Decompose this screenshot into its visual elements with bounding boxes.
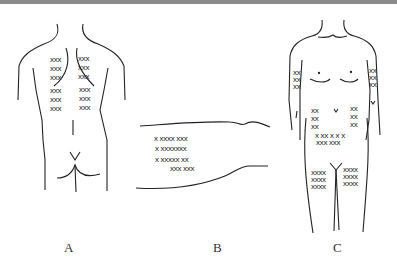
panel-label-b: B	[213, 240, 222, 256]
x-mark: xxx	[79, 103, 90, 112]
x-mark: xxx	[79, 85, 90, 94]
x-mark: xx	[311, 122, 319, 131]
x-mark: xxx	[50, 73, 61, 82]
x-mark: xxx xxx	[316, 138, 340, 147]
x-mark: xxxx	[311, 182, 326, 191]
x-mark: xxx	[50, 86, 61, 95]
x-mark: xx	[350, 120, 358, 129]
x-mark: xxx	[78, 72, 89, 81]
x-mark: xxxx	[343, 179, 358, 188]
x-mark: xxx xxx	[170, 164, 194, 173]
panel-label-a: A	[64, 240, 73, 256]
x-mark: x xxxx xxx	[154, 134, 188, 143]
x-mark: xx	[293, 82, 301, 91]
x-mark: xxx	[78, 63, 89, 72]
x-mark: xxx	[50, 64, 61, 73]
x-mark: xxx	[79, 94, 90, 103]
x-mark: xxx	[78, 54, 89, 63]
x-mark: x xxxxxxx	[155, 144, 187, 153]
x-mark: xxx	[50, 104, 61, 113]
back-marks: xxx xxx xxx xxx xxx xxx xxx xxx xxx xxx …	[50, 54, 90, 113]
thigh-marks: x xxxx xxx x xxxxxxx x xxxxx xx xxx xxx	[154, 134, 194, 173]
x-mark: xxx	[50, 55, 61, 64]
x-mark: x xxxxx xx	[155, 155, 189, 164]
figure-back	[18, 24, 125, 192]
panel-label-c: C	[333, 240, 342, 256]
x-mark: xxx	[50, 95, 61, 104]
injection-sites-illustration: xxx xxx xxx xxx xxx xxx xxx xxx xxx xxx …	[0, 0, 397, 269]
x-mark: xx	[369, 80, 377, 89]
figure-front	[289, 20, 380, 233]
